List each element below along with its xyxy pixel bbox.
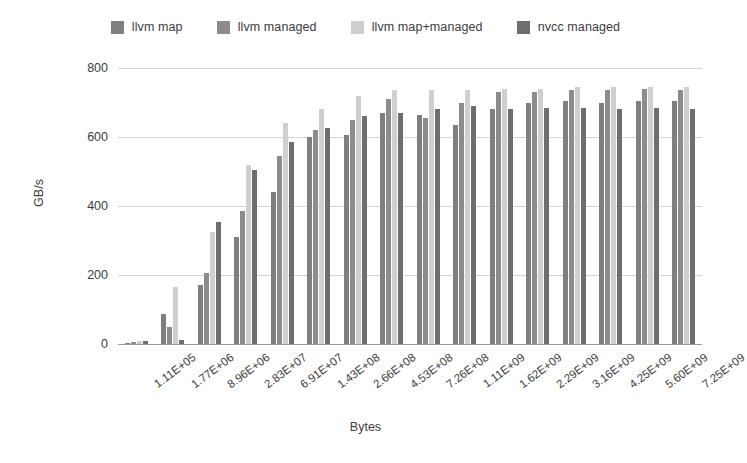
bar [617, 109, 622, 344]
legend-item: llvm managed [217, 20, 317, 34]
y-axis-title: GB/s [32, 148, 46, 238]
bar [417, 115, 422, 344]
bar [137, 341, 142, 344]
bar [252, 170, 257, 344]
bar [161, 314, 166, 344]
bar-group [447, 68, 484, 344]
bar [319, 109, 324, 344]
legend-swatch-icon [351, 21, 364, 34]
bar-group [629, 68, 666, 344]
bar [392, 90, 397, 344]
bar [544, 108, 549, 344]
bar [198, 285, 203, 344]
bar [690, 109, 695, 344]
y-tick-label: 200 [60, 268, 108, 282]
bar [350, 120, 355, 344]
bar [289, 142, 294, 344]
bar [642, 89, 647, 344]
legend-item: nvcc managed [517, 20, 621, 34]
bar [423, 118, 428, 344]
x-axis-title: Bytes [0, 420, 731, 434]
bar [283, 123, 288, 344]
bar [362, 116, 367, 344]
bar [344, 135, 349, 344]
bar-group [483, 68, 520, 344]
bar [398, 113, 403, 344]
bar [532, 92, 537, 344]
bar-group [666, 68, 703, 344]
bar [143, 341, 148, 344]
bar [490, 109, 495, 344]
legend-item: llvm map+managed [351, 20, 483, 34]
legend-swatch-icon [111, 21, 124, 34]
bar [380, 113, 385, 344]
bar [672, 101, 677, 344]
bar [307, 137, 312, 344]
bar [246, 165, 251, 344]
bar-group [593, 68, 630, 344]
bar [538, 89, 543, 344]
bar [678, 90, 683, 344]
bar [429, 90, 434, 344]
bar [234, 237, 239, 344]
bar-group [118, 68, 155, 344]
bar-group [264, 68, 301, 344]
bar-group [337, 68, 374, 344]
bar [599, 103, 604, 345]
legend-item-label: llvm map+managed [372, 20, 483, 34]
bar [654, 108, 659, 344]
bar-group [410, 68, 447, 344]
bar-group [155, 68, 192, 344]
y-axis-ticks: 0200400600800 [60, 0, 108, 463]
bar-group [191, 68, 228, 344]
legend-item-label: llvm map [132, 20, 183, 34]
bar [173, 287, 178, 344]
y-tick-label: 800 [60, 61, 108, 75]
bar [611, 87, 616, 344]
legend-swatch-icon [517, 21, 530, 34]
bar [356, 96, 361, 344]
legend-item-label: nvcc managed [538, 20, 621, 34]
bar-group [556, 68, 593, 344]
bar [131, 342, 136, 344]
chart-legend: llvm mapllvm managedllvm map+managednvcc… [0, 20, 731, 34]
bar [240, 211, 245, 344]
bar [508, 109, 513, 344]
bars-layer [118, 68, 702, 344]
bar [386, 99, 391, 344]
bar [526, 103, 531, 345]
bar-group [520, 68, 557, 344]
bar [216, 222, 221, 344]
bar [204, 273, 209, 344]
bar [502, 89, 507, 344]
bar [325, 128, 330, 344]
legend-item-label: llvm managed [238, 20, 317, 34]
bar [453, 125, 458, 344]
bar [575, 87, 580, 344]
bar [459, 103, 464, 345]
legend-swatch-icon [217, 21, 230, 34]
bar [167, 327, 172, 344]
bar [435, 109, 440, 344]
bar [605, 90, 610, 344]
y-tick-label: 0 [60, 337, 108, 351]
bar [125, 343, 130, 344]
legend-item: llvm map [111, 20, 183, 34]
bar [271, 192, 276, 344]
bar [563, 101, 568, 344]
x-axis-ticks: 1.11E+051.77E+068.96E+062.83E+076.91E+07… [118, 345, 702, 415]
bar [465, 90, 470, 344]
bar [179, 340, 184, 344]
bar [636, 101, 641, 344]
bar-group [301, 68, 338, 344]
bar [648, 87, 653, 344]
bar [569, 90, 574, 344]
bar [471, 106, 476, 344]
bar [496, 92, 501, 344]
bar [210, 232, 215, 344]
bar-group [374, 68, 411, 344]
y-tick-label: 400 [60, 199, 108, 213]
bar-group [228, 68, 265, 344]
bar [277, 156, 282, 344]
